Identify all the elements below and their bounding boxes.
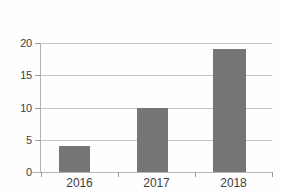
y-tick-label-10: 10 <box>8 103 32 114</box>
y-tick-label-text: 10 <box>10 103 32 114</box>
bar-2017 <box>137 108 168 173</box>
x-axis-baseline <box>30 172 273 173</box>
bar-2016 <box>59 146 90 172</box>
x-axis-label-2016: 2016 <box>41 176 118 190</box>
y-tick-label-text: 0 <box>10 167 32 178</box>
x-axis-label-2018: 2018 <box>195 176 272 190</box>
gridline-20 <box>41 43 272 44</box>
x-axis-label-2017: 2017 <box>118 176 195 190</box>
bar-2018 <box>213 49 246 172</box>
plot-area <box>41 43 272 172</box>
bar-chart: 20 15 10 5 0 2016 2017 2018 <box>0 0 283 195</box>
y-tick-label-5: 5 <box>8 135 32 146</box>
y-tick-label-text: 5 <box>10 135 32 146</box>
y-tick-label-text: 15 <box>10 70 32 81</box>
y-tick-label-text: 20 <box>10 38 32 49</box>
y-tick-label-20: 20 <box>8 38 32 49</box>
y-tick-label-0: 0 <box>8 167 32 178</box>
y-tick-label-15: 15 <box>8 70 32 81</box>
category-tick-right <box>272 172 273 177</box>
